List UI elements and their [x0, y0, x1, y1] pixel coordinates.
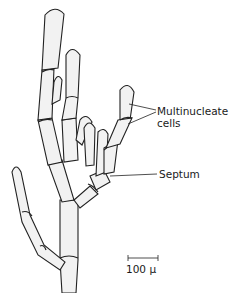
multinucleate-cells-label: Multinucleate cells	[157, 105, 228, 129]
filament-drawing	[0, 0, 230, 293]
scale-bar-label: 100 μ	[126, 263, 156, 275]
inner-filament	[62, 50, 80, 163]
septum-label: Septum	[159, 168, 200, 180]
label-line-2: cells	[157, 117, 228, 129]
figure: Multinucleate cells Septum 100 μ	[0, 0, 230, 293]
right-branch	[74, 85, 134, 208]
main-stem	[60, 200, 78, 293]
scale-bar	[128, 255, 158, 261]
label-line-1: Multinucleate	[157, 105, 228, 117]
